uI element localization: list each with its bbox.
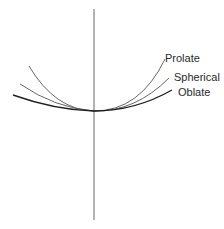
label-prolate: Prolate xyxy=(165,52,200,64)
label-spherical: Spherical xyxy=(174,71,220,83)
label-oblate: Oblate xyxy=(178,86,210,98)
curve-oblate xyxy=(13,90,172,111)
diagram: Prolate Spherical Oblate xyxy=(0,0,224,229)
